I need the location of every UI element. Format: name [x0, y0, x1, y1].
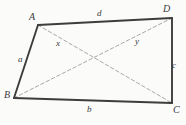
diagonal-bd-line	[14, 18, 172, 98]
vertex-label-b: B	[4, 90, 10, 100]
diagonal-label-y: y	[135, 37, 139, 46]
side-label-c: c	[172, 61, 176, 70]
side-bc-line	[14, 98, 172, 103]
diagonal-ac-line	[38, 25, 172, 103]
side-label-b: b	[87, 105, 92, 114]
side-label-a: a	[18, 55, 23, 64]
quadrilateral-svg	[0, 0, 186, 125]
side-ad-line	[38, 18, 172, 25]
side-label-d: d	[97, 9, 102, 18]
diagonal-label-x: x	[56, 39, 60, 48]
vertex-label-a: A	[29, 12, 35, 22]
geometry-figure: A B C D d a b c x y	[0, 0, 186, 125]
vertex-label-c: C	[173, 105, 180, 115]
vertex-label-d: D	[163, 4, 170, 14]
